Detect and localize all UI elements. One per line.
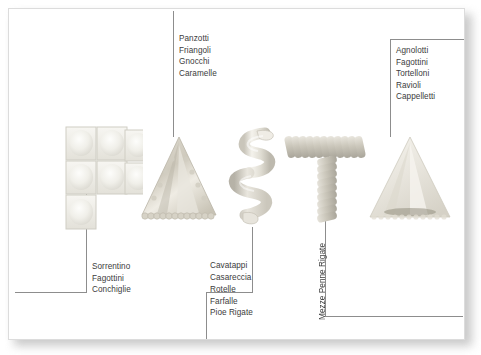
callout-item: Friangoli (179, 45, 217, 57)
callout-agnolotti-group: Agnolotti Fagottini Tortelloni Ravioli C… (396, 45, 435, 103)
pasta-letter-a-first (137, 135, 221, 227)
callout-item: Fagottini (92, 273, 131, 285)
pasta-letter-p (65, 126, 143, 231)
callout-item: Cappelletti (396, 91, 435, 103)
leader-line-mezze-penne-horizontal (325, 316, 463, 317)
callout-mezze-penne-rigate: Mezze Penne Rigate (317, 243, 329, 320)
callout-cavatappi-group: Cavatappi Casareccia (210, 260, 251, 283)
diagram-canvas: Panzotti Friangoli Gnocchi Caramelle Agn… (0, 0, 481, 355)
leader-line-rotelle-vertical (206, 292, 207, 339)
callout-item: Agnolotti (396, 45, 435, 57)
leader-line-cavatappi-vertical (252, 227, 253, 292)
leader-line-sorrentino-horizontal (15, 292, 87, 293)
callout-item: Panzotti (179, 33, 217, 45)
callout-item: Cavatappi (210, 260, 251, 272)
callout-item: Rotelle (210, 284, 253, 296)
callout-item: Caramelle (179, 68, 217, 80)
callout-item: Tortelloni (396, 68, 435, 80)
pasta-letter-s (227, 127, 283, 229)
callout-item: Pioe Rigate (210, 307, 253, 319)
callout-item: Mezze Penne Rigate (317, 243, 329, 320)
pasta-letter-a-second (364, 135, 456, 227)
callout-item: Farfalle (210, 296, 253, 308)
callout-item: Sorrentino (92, 261, 131, 273)
callout-item: Conchiglie (92, 284, 131, 296)
leader-line-agnolotti-top (390, 39, 464, 40)
leader-line-panzotti (173, 11, 174, 137)
leader-line-agnolotti (390, 39, 391, 137)
pasta-letter-t (284, 133, 370, 223)
callout-panzotti-group: Panzotti Friangoli Gnocchi Caramelle (179, 33, 217, 79)
callout-item: Casareccia (210, 272, 251, 284)
callout-item: Fagottini (396, 57, 435, 69)
callout-item: Ravioli (396, 80, 435, 92)
diagram-card: Panzotti Friangoli Gnocchi Caramelle Agn… (8, 8, 465, 340)
callout-item: Gnocchi (179, 56, 217, 68)
callout-rotelle-group: Rotelle Farfalle Pioe Rigate (210, 284, 253, 319)
callout-sorrentino-group: Sorrentino Fagottini Conchiglie (92, 261, 131, 296)
